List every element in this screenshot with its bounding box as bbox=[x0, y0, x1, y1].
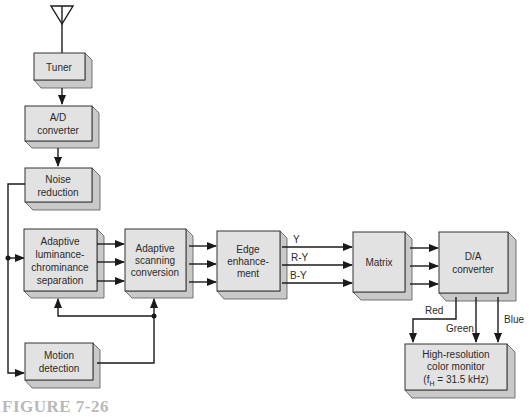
edge-label-3: ment bbox=[237, 268, 259, 279]
da-label-2: converter bbox=[452, 264, 494, 275]
lcs-label-1: Adaptive bbox=[41, 236, 80, 247]
block-da-converter: D/A converter bbox=[439, 232, 516, 301]
tuner-label: Tuner bbox=[46, 62, 72, 73]
block-lum-chrom-separation: Adaptive luminance- chrominance separati… bbox=[24, 229, 104, 298]
block-tuner: Tuner bbox=[34, 53, 92, 88]
block-ad-converter: A/D converter bbox=[25, 106, 99, 148]
signal-y-label: Y bbox=[293, 234, 300, 245]
signal-blue-label: Blue bbox=[504, 314, 524, 325]
block-edge-enhancement: Edge enhance- ment bbox=[217, 231, 287, 299]
antenna-icon bbox=[51, 6, 73, 53]
monitor-label-2: color monitor bbox=[427, 361, 485, 372]
signal-b-y-label: B-Y bbox=[290, 270, 307, 281]
block-monitor: High-resolution color monitor (fH = 31.5… bbox=[405, 344, 515, 398]
ad-label-1: A/D bbox=[50, 112, 67, 123]
matrix-label: Matrix bbox=[365, 257, 392, 268]
noise-label-1: Noise bbox=[45, 174, 71, 185]
block-noise-reduction: Noise reduction bbox=[25, 168, 100, 210]
monitor-label-1: High-resolution bbox=[422, 349, 489, 360]
figure-caption: FIGURE 7-26 bbox=[2, 397, 109, 417]
signal-r-y-label: R-Y bbox=[291, 252, 309, 263]
block-matrix: Matrix bbox=[353, 232, 412, 300]
noise-label-2: reduction bbox=[37, 187, 78, 198]
block-scanning-conversion: Adaptive scanning conversion bbox=[125, 229, 193, 298]
edge-label-2: enhance- bbox=[227, 256, 269, 267]
lcs-label-3: chrominance bbox=[31, 262, 89, 273]
motion-label-1: Motion bbox=[44, 350, 74, 361]
motion-label-2: detection bbox=[39, 363, 80, 374]
scan-label-1: Adaptive bbox=[136, 243, 175, 254]
lcs-label-4: separation bbox=[37, 275, 84, 286]
signal-green-label: Green bbox=[446, 323, 474, 334]
da-label-1: D/A bbox=[465, 251, 482, 262]
block-motion-detection: Motion detection bbox=[25, 343, 100, 388]
signal-red-label: Red bbox=[425, 305, 443, 316]
block-diagram: Tuner A/D converter Noise reduction Adap… bbox=[0, 0, 530, 418]
scan-label-2: scanning bbox=[135, 255, 175, 266]
scan-label-3: conversion bbox=[131, 267, 179, 278]
ad-label-2: converter bbox=[37, 125, 79, 136]
edge-label-1: Edge bbox=[236, 244, 260, 255]
lcs-label-2: luminance- bbox=[36, 249, 85, 260]
